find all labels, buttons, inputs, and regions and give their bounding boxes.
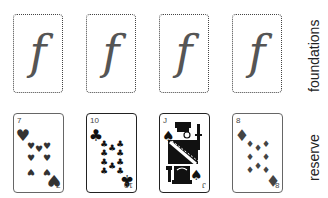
svg-text:♠: ♠ <box>190 167 203 183</box>
diamonds-pip-icon: ♦ <box>254 161 262 171</box>
foundations-label: foundations <box>306 20 322 92</box>
hearts-pip-icon: ♥ <box>27 167 35 177</box>
reserve-card-8-diamonds[interactable]: ♦♦♦♦♦♦♦♦♦♦ 8 8 <box>232 113 283 193</box>
card-rank-bottom: 7 <box>56 181 60 189</box>
diamonds-pip-icon: ♦ <box>262 139 270 149</box>
svg-text:♠: ♠ <box>162 128 175 144</box>
foundation-slot-4[interactable]: f <box>232 14 282 93</box>
diamonds-pip-icon: ♦ <box>262 152 270 162</box>
reserve-card-7-hearts[interactable]: ♥♥♥♥♥♥♥♥♥ 7 7 <box>13 113 64 193</box>
reserve-card-10-clubs[interactable]: ♣♣♣♣♣♣♣♣♣♣♣♣ 10 10 <box>86 113 137 193</box>
foundation-slot-2[interactable]: f <box>86 14 136 93</box>
foundation-placeholder-icon: f <box>14 27 62 77</box>
foundation-placeholder-icon: f <box>233 27 281 77</box>
foundation-placeholder-icon: f <box>160 27 208 77</box>
hearts-pip-icon: ♥ <box>27 153 35 163</box>
hearts-pip-icon: ♥ <box>27 141 35 151</box>
card-rank-top: 10 <box>90 117 99 125</box>
card-rank-top: 8 <box>236 117 240 125</box>
hearts-pip-icon: ♥ <box>43 153 51 163</box>
foundation-slot-1[interactable]: f <box>13 14 63 93</box>
diamonds-pip-icon: ♦ <box>262 165 270 175</box>
clubs-pip-icon: ♣ <box>108 161 116 171</box>
reserve-label: reserve <box>306 134 322 181</box>
card-rank-bottom: 8 <box>275 181 279 189</box>
card-rank-top: J <box>163 117 167 125</box>
diamonds-pip-icon: ♦ <box>246 152 254 162</box>
diamonds-pip-icon: ♦ <box>246 139 254 149</box>
card-rank-bottom: 10 <box>124 181 133 189</box>
diamonds-pip-icon: ♦ <box>246 165 254 175</box>
hearts-pip-icon: ♥ <box>43 167 51 177</box>
reserve-card-jack-spades[interactable]: ♠ ♠ J J <box>159 113 210 193</box>
clubs-pip-icon: ♣ <box>108 143 116 153</box>
card-rank-top: 7 <box>17 117 21 125</box>
foundation-placeholder-icon: f <box>87 27 135 77</box>
hearts-pip-icon: ♥ <box>43 141 51 151</box>
clubs-pip-icon: ♣ <box>116 166 124 176</box>
clubs-pip-icon: ♣ <box>100 166 108 176</box>
foundation-slot-3[interactable]: f <box>159 14 209 93</box>
hearts-pip-icon: ♥ <box>35 144 43 154</box>
card-rank-bottom: J <box>202 181 206 189</box>
diamonds-pip-icon: ♦ <box>254 143 262 153</box>
